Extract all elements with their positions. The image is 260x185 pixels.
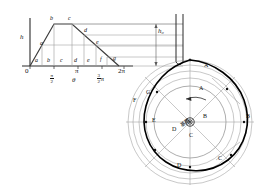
profile-label-E: E [152,117,156,123]
x-tick-pi-over-2: π 2 [50,68,54,85]
curve-point-a: a [40,40,43,46]
x-tick-three-halves-pi: 3 2 π [97,68,104,85]
x-tick-pi-over-2-fraction: π 2 [50,73,54,85]
segment-label-b: b [47,57,50,63]
segment-label-c: c [60,57,63,63]
profile-label-D1: D [172,126,176,132]
x-tick-den: 2 [50,79,54,84]
profile-label-G: G [146,89,150,95]
curve-point-c: c [68,15,71,21]
profile-label-C1: C [189,132,193,138]
segment-label-a: a [35,57,38,63]
segment-label-e: e [87,57,90,63]
rotation-arrow [186,97,206,101]
profile-label-D2: D [177,162,181,168]
segment-label-d: d [74,57,77,63]
lift-label: h₀ [158,28,164,35]
profile-label-B1: B [203,113,207,119]
curve-point-d: d [84,27,87,33]
x-tick-two-pi: 2π [118,68,125,75]
x-axis-label: θ [72,77,75,84]
cam-construction-group [126,14,254,185]
profile-label-B2: B [246,113,250,119]
curve-point-b: b [50,15,53,21]
y-axis-label: h [20,34,24,41]
x-tick-suffix: π [101,75,105,83]
profile-label-A2: A [199,85,203,91]
origin-label: 0 [25,68,29,75]
profile-label-A1: A [204,62,208,68]
x-tick-pi: π [75,68,79,75]
curve-point-e: e [96,39,99,45]
segment-label-g: g [113,55,116,61]
profile-label-F: F [133,97,136,103]
profile-label-C2: C [218,155,222,161]
segment-label-f: f [100,56,102,62]
figure-canvas: h 0 π 2 π 3 2 π 2π θ a b c d e a b c d e… [0,0,260,185]
